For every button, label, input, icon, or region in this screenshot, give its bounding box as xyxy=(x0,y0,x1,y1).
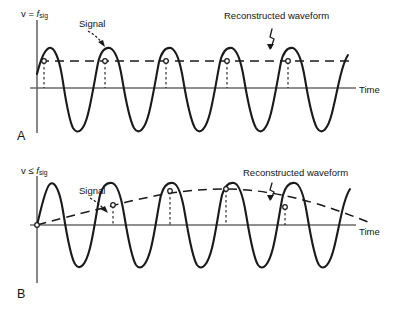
panel-b-axis-label-prefix: v ≤ xyxy=(21,165,36,176)
panel-b-reconstructed-arrow-icon xyxy=(267,183,274,201)
panel-a-axis-label: v = fsig xyxy=(21,9,48,20)
panel-b-time-label: Time xyxy=(359,227,380,237)
panel-b-letter: B xyxy=(17,288,25,301)
panel-b-plot xyxy=(0,158,404,316)
panel-a-droplines xyxy=(44,62,288,88)
panel-a: v = fsig Signal Reconstructed waveform T… xyxy=(0,0,404,158)
panel-b: v ≤ fsig Signal Reconstructed waveform T… xyxy=(0,158,404,316)
panel-b-droplines xyxy=(113,190,285,225)
panel-a-signal-label: Signal xyxy=(79,19,105,29)
panel-b-axis-label: v ≤ fsig xyxy=(21,166,48,177)
panel-b-reconstructed-label: Reconstructed waveform xyxy=(243,168,348,178)
panel-a-plot xyxy=(0,0,404,158)
panel-a-reconstructed-arrow-icon xyxy=(267,29,274,50)
panel-a-time-label: Time xyxy=(359,85,380,95)
panel-a-axis-label-subscript: sig xyxy=(39,12,48,19)
panel-a-reconstructed-label: Reconstructed waveform xyxy=(224,11,329,21)
panel-a-axis-label-prefix: v = xyxy=(21,8,37,19)
panel-b-signal-label: Signal xyxy=(79,186,105,196)
panel-b-axis-label-subscript: sig xyxy=(39,169,48,176)
panel-a-letter: A xyxy=(17,130,25,143)
panel-a-signal-arrow-icon xyxy=(88,31,105,47)
figure-container: v = fsig Signal Reconstructed waveform T… xyxy=(0,0,404,316)
